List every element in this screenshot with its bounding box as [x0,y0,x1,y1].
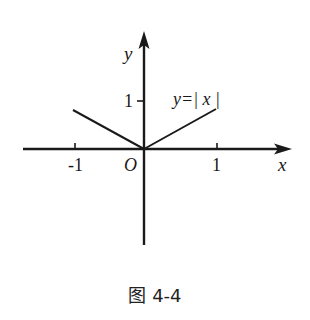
x-axis [23,143,292,155]
x-tick-label-1: 1 [212,155,221,175]
y-axis-label: y [122,43,133,64]
left-branch [73,110,144,149]
right-branch [144,109,216,149]
figure-caption: 图 4-4 [128,285,181,306]
y-tick-label-1: 1 [124,91,133,111]
origin-label: O [124,155,137,175]
y-axis [137,31,150,245]
x-tick-label-neg1: -1 [68,155,83,175]
function-label: y=| x | [171,89,220,109]
abs-value-graph: y x O -1 1 1 y=| x | 图 4-4 [0,0,310,320]
x-axis-label: x [277,154,287,175]
